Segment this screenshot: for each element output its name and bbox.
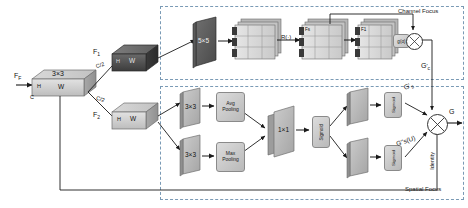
spatial-conv-top-label: 3×3 [185,104,196,111]
sigmoid-bottom-node: Sigmoid [384,145,402,171]
branch2-name-sub: 2 [97,114,100,120]
channel-stack1-label: F1 [361,28,366,33]
branch1-label: F1 [93,48,100,57]
branch1-dim-w: W [129,58,135,65]
channel-feature-stack-2 [299,19,348,59]
channel-stack2-label: Fs [305,28,310,33]
input-dim-h: H [37,84,41,90]
sigmoid-top-node: Sigmoid [384,92,402,118]
branch1-name-sub: 1 [97,51,100,57]
sigmoid-mid-node: Sigmoid [312,116,330,148]
branch2-dim-h: H [117,117,121,123]
channel-conv5x5-label: 5×5 [198,38,209,45]
identity-path-label: Identity [430,152,436,170]
input-feature-label: FF [14,72,21,81]
channel-output-label: G'c [421,62,430,71]
channel-reshape-label: R(·) [281,34,291,40]
channel-feature-stack-1 [232,19,281,59]
avg-pooling-label-2: Pooling [222,107,239,113]
branch1-dim-h: H [116,59,120,65]
channel-feature-stack-3 [355,19,398,59]
branch2-label: F2 [93,111,100,120]
channel-multiply-operator [406,33,423,50]
spatial-1x1-label: 1×1 [278,127,289,134]
figure-canvas: Channel Focus Spatial Focus [0,0,468,208]
channel-output-sub: c [428,65,431,71]
final-output-label: G [449,108,454,115]
max-pooling-label-2: Pooling [222,157,239,163]
input-dim-c: C [30,95,34,101]
sigmoid-mid-label: Sigmoid [319,124,324,141]
sigmoid-bottom-label: Sigmoid [391,150,396,166]
avg-pooling-node: Avg Pooling [216,92,245,122]
spatial-result-slab-top [347,88,368,126]
input-feature-sub: F [18,75,21,81]
input-dim-w: W [58,84,64,91]
input-feature-box [32,70,96,96]
input-conv-label: 3×3 [52,70,64,77]
output-multiply-operator [427,114,448,135]
branch2-dim-w: W [130,116,136,123]
spatial-conv-bottom-label: 3×3 [185,152,196,159]
sigmoid-top-label: Sigmoid [391,97,396,113]
max-pooling-node: Max Pooling [216,142,245,172]
spatial-result-slab-bottom [347,138,368,178]
